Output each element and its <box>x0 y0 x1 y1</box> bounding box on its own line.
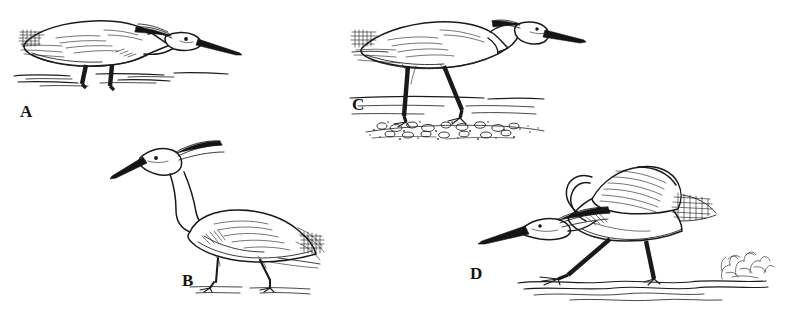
panel-a: A <box>8 8 258 98</box>
water-lines-c <box>350 97 544 100</box>
panel-d-drawing <box>478 155 778 305</box>
panel-d: D <box>478 155 778 305</box>
illustration-plate: A <box>0 0 794 315</box>
panel-b: B <box>110 132 330 297</box>
panel-a-label: A <box>20 103 32 120</box>
panel-b-label: B <box>182 272 194 289</box>
gravel-bank-c <box>366 121 544 140</box>
panel-c: C <box>348 8 588 148</box>
water-lines-a <box>14 73 228 83</box>
water-lines-d <box>518 281 768 289</box>
ground-line-b <box>190 287 310 294</box>
panel-c-drawing <box>348 8 588 148</box>
panel-b-drawing <box>110 132 330 297</box>
panel-c-label: C <box>352 96 364 113</box>
panel-d-label: D <box>470 265 482 282</box>
shrub-tuft-d <box>721 252 774 279</box>
panel-a-drawing <box>8 8 258 98</box>
toes-b <box>200 288 274 292</box>
